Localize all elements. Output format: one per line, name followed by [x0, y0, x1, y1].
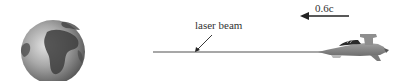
- globe-icon: [21, 20, 85, 81]
- velocity-label: 0.6c: [315, 3, 334, 14]
- pointer-arrow-icon: [195, 35, 212, 52]
- laser-beam-label: laser beam: [195, 20, 242, 31]
- diagram: laser beam 0.6c: [0, 0, 398, 81]
- diagram-canvas: [0, 0, 398, 81]
- spaceship-icon: [318, 34, 389, 61]
